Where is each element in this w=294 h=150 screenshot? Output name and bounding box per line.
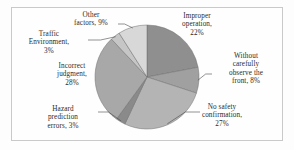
slice-label-other-factors: Other factors, 9% bbox=[60, 11, 122, 28]
slice-label-improper-operation: Improper operation, 22% bbox=[166, 12, 228, 37]
pie-chart-figure: Other factors, 9% Traffic Environment, 3… bbox=[0, 0, 294, 150]
slice-label-without-carefully-observe-the-front: Without carefully observe the front, 8% bbox=[214, 52, 278, 86]
slice-label-traffic-environment: Traffic Environment, 3% bbox=[12, 30, 86, 55]
slice-label-incorrect-judgment: Incorrect judgment, 28% bbox=[40, 62, 104, 87]
slice-label-no-safety-confirmation: No safety confirmation, 27% bbox=[186, 103, 258, 128]
slice-label-hazard-prediction-errors: Hazard prediction errors, 3% bbox=[30, 105, 96, 130]
leader-line bbox=[198, 74, 212, 80]
